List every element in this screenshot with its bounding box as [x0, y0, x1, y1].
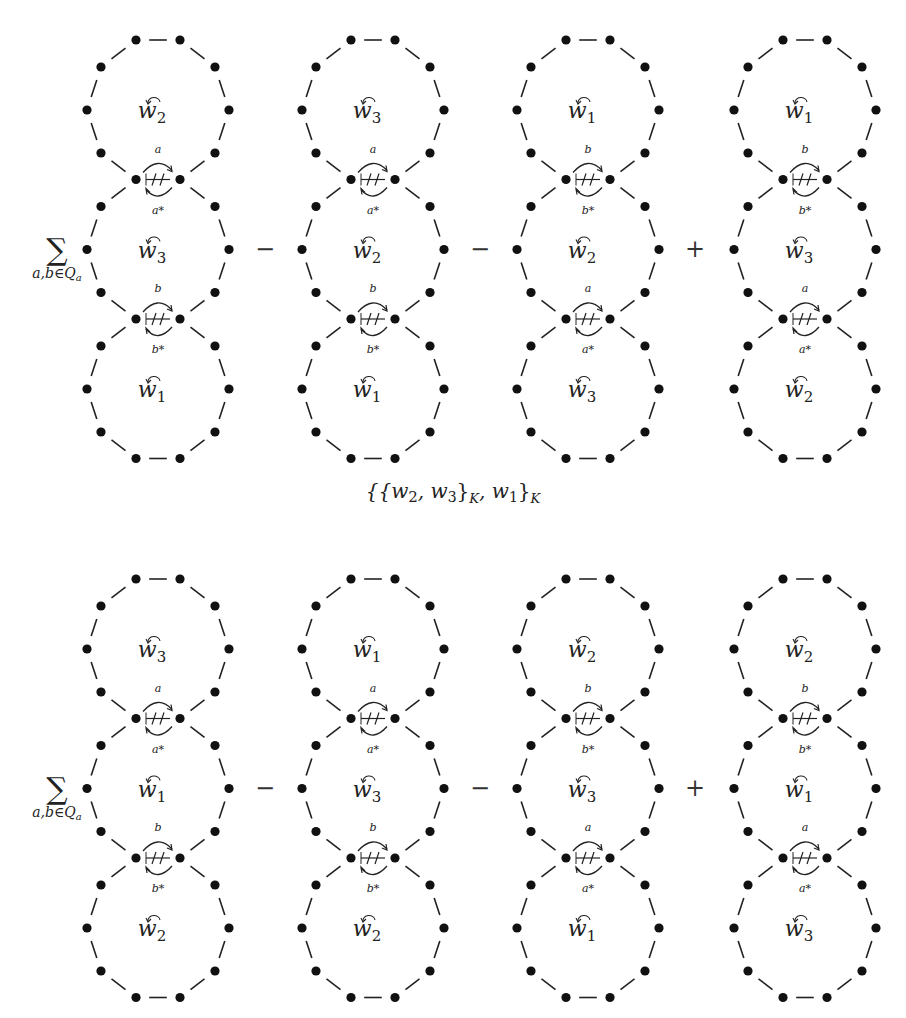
vertex-dot [743, 288, 752, 297]
vertex-dot [605, 454, 614, 463]
arrow-label-bottom: a* [367, 743, 380, 756]
arrow-label-top: a [370, 682, 377, 695]
vertex-dot [96, 62, 105, 71]
vertex-dot [210, 687, 219, 696]
vertex-dot [131, 314, 140, 323]
vertex-dot [425, 148, 434, 157]
vertex-dot [82, 644, 91, 653]
vertex-dot [857, 880, 866, 889]
equation-row-1: ∑a,b∈Qa−−+w2w3w1aa*bb*w3w2w1aa*bb*w1w2w3… [32, 35, 880, 463]
crossing-2: aa* [790, 821, 819, 895]
loop-label-w3: w3 [353, 776, 381, 806]
vertex-dot [311, 202, 320, 211]
loop-label-w1: w1 [353, 376, 381, 406]
svg-text:w2: w2 [138, 98, 166, 127]
vertex-dot [210, 427, 219, 436]
vertex-dot [729, 105, 738, 114]
loop-diagram-2: w3w2w1aa*bb* [297, 35, 448, 463]
svg-text:w1: w1 [785, 98, 813, 127]
arrow-label-top: a [155, 682, 162, 695]
crossing-1: bb* [790, 143, 819, 217]
loop-label-w2: w2 [353, 237, 381, 267]
vertex-dot [778, 714, 787, 723]
vertex-dot [131, 454, 140, 463]
vertex-dot [210, 880, 219, 889]
vertex-dot [778, 454, 787, 463]
vertex-dot [871, 384, 880, 393]
vertex-dot [439, 784, 448, 793]
vertex-dot [297, 784, 306, 793]
vertex-dot [82, 923, 91, 932]
svg-text:w3: w3 [353, 98, 381, 127]
svg-text:w3: w3 [568, 777, 596, 806]
loop-diagram-2: w1w3w2aa*bb* [297, 574, 448, 1002]
vertex-dot [390, 454, 399, 463]
svg-text:w1: w1 [568, 916, 596, 945]
vertex-dot [822, 35, 831, 44]
vertex-dot [346, 574, 355, 583]
vertex-dot [822, 574, 831, 583]
loop-label-w1: w1 [353, 636, 381, 666]
vertex-dot [175, 993, 184, 1002]
vertex-dot [654, 644, 663, 653]
vertex-dot [743, 341, 752, 350]
vertex-dot [857, 148, 866, 157]
vertex-dot [311, 148, 320, 157]
vertex-dot [561, 574, 570, 583]
svg-text:w2: w2 [353, 916, 381, 945]
vertex-dot [297, 245, 306, 254]
vertex-dot [224, 784, 233, 793]
vertex-dot [311, 62, 320, 71]
vertex-dot [131, 993, 140, 1002]
vertex-dot [743, 827, 752, 836]
vertex-dot [778, 853, 787, 862]
vertex-dot [210, 827, 219, 836]
arrow-a [790, 303, 819, 312]
vertex-dot [346, 175, 355, 184]
vertex-dot [743, 202, 752, 211]
vertex-dot [390, 714, 399, 723]
vertex-dot [224, 105, 233, 114]
arrow-label-bottom: a* [367, 204, 380, 217]
svg-text:w3: w3 [568, 377, 596, 406]
loop-cycle: w3 [297, 35, 448, 184]
vertex-dot [425, 966, 434, 975]
arrow-label-top: b [369, 282, 376, 295]
equation-row-2: ∑a,b∈Qa−−+w3w1w2aa*bb*w1w3w2aa*bb*w2w3w1… [32, 574, 880, 1002]
crossing-1: bb* [790, 682, 819, 756]
caption-formula: {{w2, w3}K, w1}K [366, 479, 542, 506]
vertex-dot [526, 827, 535, 836]
vertex-dot [743, 601, 752, 610]
vertex-dot [224, 245, 233, 254]
vertex-dot [605, 993, 614, 1002]
vertex-dot [857, 687, 866, 696]
vertex-dot [526, 288, 535, 297]
vertex-dot [526, 601, 535, 610]
vertex-dot [96, 966, 105, 975]
crossing-2: aa* [573, 821, 602, 895]
plus-operator: + [685, 774, 705, 802]
arrow-label-bottom: b* [152, 343, 165, 356]
vertex-dot [390, 314, 399, 323]
crossing-1: aa* [143, 682, 172, 756]
vertex-dot [224, 384, 233, 393]
vertex-dot [512, 784, 521, 793]
vertex-dot [743, 741, 752, 750]
loop-cycle: w2 [512, 574, 663, 723]
loop-diagram-1: w3w1w2aa*bb* [82, 574, 233, 1002]
svg-text:w3: w3 [138, 238, 166, 267]
vertex-dot [96, 427, 105, 436]
double-bracket-diagram-figure: ∑a,b∈Qa−−+w2w3w1aa*bb*w3w2w1aa*bb*w1w2w3… [0, 0, 906, 1018]
crossing-2: aa* [573, 282, 602, 356]
vertex-dot [640, 148, 649, 157]
vertex-dot [857, 741, 866, 750]
arrow-label-bottom: b* [799, 743, 812, 756]
vertex-dot [871, 923, 880, 932]
vertex-dot [729, 384, 738, 393]
vertex-dot [526, 741, 535, 750]
vertex-dot [561, 35, 570, 44]
vertex-dot [743, 62, 752, 71]
vertex-dot [425, 741, 434, 750]
sum-over-arrows: ∑a,b∈Qa [32, 771, 82, 822]
loop-label-w3: w3 [568, 776, 596, 806]
